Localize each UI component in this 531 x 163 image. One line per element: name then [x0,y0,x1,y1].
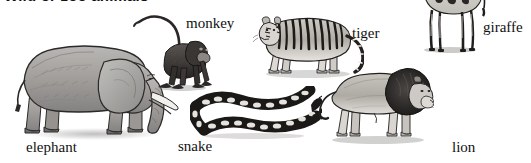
label-lion: lion [452,140,475,155]
label-monkey: monkey [186,16,234,31]
page-title: Wild or zoo animals [4,0,149,4]
label-elephant: elephant [26,140,77,155]
label-snake: snake [178,139,212,154]
lion-figure [318,58,434,148]
label-giraffe: giraffe [483,20,523,35]
giraffe-figure [416,0,488,54]
illustration-page: Wild or zoo animals [0,0,531,163]
label-tiger: tiger [352,26,380,41]
snake-figure [190,86,322,142]
